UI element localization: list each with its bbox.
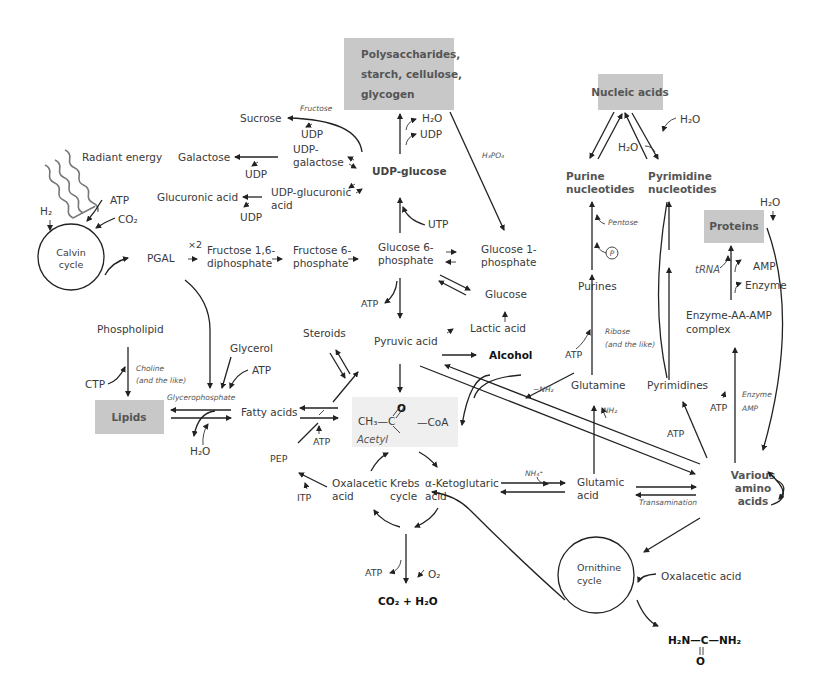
various-amino-acids-label: Various bbox=[731, 469, 775, 481]
svg-text:—CoA: —CoA bbox=[417, 416, 449, 428]
oxalacetic-acid-ornithine-label: Oxalacetic acid bbox=[661, 570, 741, 582]
amp-label: AMP bbox=[753, 260, 776, 272]
glucose6-label-2: phosphate bbox=[378, 254, 434, 266]
krebs-cycle-label-2: cycle bbox=[390, 490, 417, 502]
fructose6-label: Fructose 6- bbox=[293, 244, 352, 256]
udp-glucuronic-label-2: acid bbox=[271, 199, 293, 211]
ribose-label-2: (and the like) bbox=[605, 340, 655, 349]
h2o-top-label: H₂O bbox=[422, 112, 442, 124]
fructose6-label-2: phosphate bbox=[293, 257, 349, 269]
udp-glucose-label: UDP-glucose bbox=[372, 165, 447, 177]
h2o-protein-label: H₂O bbox=[760, 196, 780, 208]
phospholipid-label: Phospholipid bbox=[97, 323, 164, 335]
atp-glycolysis-label: ATP bbox=[361, 298, 379, 309]
sucrose-label: Sucrose bbox=[240, 112, 282, 124]
choline-label-2: (and the like) bbox=[136, 376, 186, 385]
fatty-acids-label: Fatty acids bbox=[241, 406, 298, 418]
h2o-lipid-label: H₂O bbox=[190, 445, 210, 457]
svg-text:Acetyl: Acetyl bbox=[356, 434, 388, 445]
o2-label: O₂ bbox=[428, 568, 440, 580]
atp-fatty-acid-label: ATP bbox=[313, 436, 331, 447]
oxalacetic-acid-label-2: acid bbox=[332, 490, 354, 502]
nh2-label: NH₂ bbox=[603, 406, 617, 415]
fructose16-label-2: diphosphate bbox=[207, 257, 272, 269]
polysaccharides-box: Polysaccharides, starch, cellulose, glyc… bbox=[344, 38, 462, 110]
krebs-cycle-label: Krebs bbox=[390, 477, 420, 489]
ctp-label: CTP bbox=[85, 378, 105, 390]
transamination-label: Transamination bbox=[639, 498, 697, 507]
various-amino-acids-label-2: amino bbox=[735, 482, 771, 494]
alcohol-label: Alcohol bbox=[489, 349, 532, 361]
enzyme-amp-label: Enzyme bbox=[742, 390, 772, 399]
glutamic-acid-label-2: acid bbox=[577, 489, 599, 501]
acetyl-coa-box: CH₃—C O —CoA Acetyl bbox=[352, 397, 458, 447]
svg-text:Ornithine: Ornithine bbox=[577, 562, 621, 573]
svg-text:CH₃—C: CH₃—C bbox=[358, 415, 395, 427]
x2-label: ×2 bbox=[188, 239, 202, 250]
udp-top-label: UDP bbox=[420, 128, 442, 140]
svg-text:Lipids: Lipids bbox=[111, 411, 146, 423]
glutamine-label: Glutamine bbox=[571, 379, 626, 391]
co2-h2o-label: CO₂ + H₂O bbox=[378, 595, 438, 607]
urea-oxygen-label: O bbox=[696, 655, 705, 667]
svg-text:O: O bbox=[397, 402, 406, 414]
purine-nucleotides-label: Purine bbox=[566, 170, 605, 182]
udp-galactose-label-2: galactose bbox=[293, 156, 344, 168]
h2o-nucleic-a-label: H₂O bbox=[680, 113, 700, 125]
glycerol-label: Glycerol bbox=[230, 342, 273, 354]
svg-text:Polysaccharides,: Polysaccharides, bbox=[361, 48, 460, 60]
nh2-minus-label: −NH₂ bbox=[533, 385, 554, 394]
glucose1-label-2: phosphate bbox=[481, 256, 537, 268]
fructose16-label: Fructose 1,6- bbox=[207, 244, 276, 256]
ornithine-cycle: Ornithine cycle bbox=[558, 537, 634, 613]
pyrimidines-label: Pyrimidines bbox=[647, 379, 708, 391]
pyruvic-acid-label: Pyruvic acid bbox=[374, 335, 438, 347]
pep-label: PEP bbox=[270, 453, 288, 464]
glucose6-label: Glucose 6- bbox=[378, 241, 434, 253]
urea-formula-label: H₂N—C—NH₂ bbox=[668, 634, 741, 646]
lipids-box: Lipids bbox=[95, 400, 164, 434]
calvin-cycle: Calvin cycle bbox=[38, 224, 104, 290]
fructose-italic-label: Fructose bbox=[300, 104, 333, 113]
nh4-label: NH₄⁺ bbox=[525, 469, 543, 478]
udp-sucrose-label: UDP bbox=[301, 128, 323, 140]
udp-galactose-byproduct-label: UDP bbox=[245, 168, 267, 180]
pyrimidine-nucleotides-label-2: nucleotides bbox=[648, 183, 717, 195]
pyrimidine-nucleotides-label: Pyrimidine bbox=[648, 170, 712, 182]
oxalacetic-acid-label: Oxalacetic bbox=[332, 477, 388, 489]
phosphate-p-label: P bbox=[610, 249, 615, 258]
purines-label: Purines bbox=[578, 280, 617, 292]
trna-label: tRNA bbox=[695, 264, 720, 275]
atp-pyrimidine-label: ATP bbox=[667, 428, 685, 439]
h2o-nucleic-b-label: H₂O bbox=[618, 141, 638, 153]
itp-label: ITP bbox=[297, 492, 312, 503]
purine-nucleotides-label-2: nucleotides bbox=[566, 183, 635, 195]
svg-text:starch, cellulose,: starch, cellulose, bbox=[361, 68, 462, 80]
glucose1-label: Glucose 1- bbox=[481, 243, 537, 255]
svg-text:cycle: cycle bbox=[577, 575, 602, 586]
steroids-label: Steroids bbox=[303, 327, 346, 339]
enzyme-amp-label-2: AMP bbox=[741, 404, 759, 413]
various-amino-acids-label-3: acids bbox=[738, 495, 769, 507]
ribose-label: Ribose bbox=[605, 327, 631, 336]
svg-text:cycle: cycle bbox=[59, 259, 84, 270]
lactic-acid-label: Lactic acid bbox=[470, 322, 526, 334]
glucuronic-acid-label: Glucuronic acid bbox=[157, 191, 238, 203]
glucose-label: Glucose bbox=[485, 288, 527, 300]
ketoglutaric-label-2: acid bbox=[425, 490, 447, 502]
proteins-box: Proteins bbox=[704, 210, 764, 243]
choline-label: Choline bbox=[136, 364, 164, 373]
udp-galactose-label: UDP- bbox=[293, 143, 319, 155]
atp-calvin-label: ATP bbox=[110, 194, 129, 206]
radiant-energy-label: Radiant energy bbox=[82, 151, 162, 163]
complex-label: Enzyme-AA-AMP bbox=[686, 309, 772, 321]
atp-enzyme-label: ATP bbox=[710, 402, 728, 413]
pgal-label: PGAL bbox=[147, 252, 175, 264]
glutamic-acid-label: Glutamic bbox=[577, 476, 624, 488]
atp-krebs-label: ATP bbox=[365, 567, 383, 578]
complex-label-2: complex bbox=[686, 323, 731, 335]
utp-label: UTP bbox=[428, 218, 448, 230]
nucleic-acids-box: Nucleic acids bbox=[591, 74, 668, 110]
svg-text:Nucleic acids: Nucleic acids bbox=[591, 86, 668, 98]
glycerophosphate-label: Glycerophosphate bbox=[167, 393, 236, 402]
